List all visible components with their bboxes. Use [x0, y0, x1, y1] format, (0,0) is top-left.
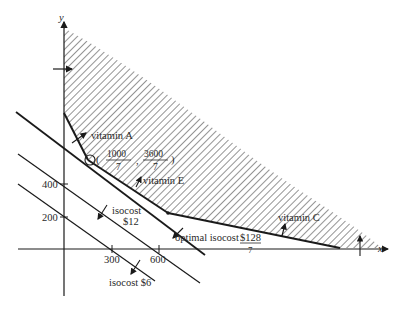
x-tick-label-300: 300	[104, 254, 120, 265]
y-denominator: 7	[153, 162, 158, 172]
isocost-6-label: isocost $6	[109, 277, 151, 288]
y-axis-label: y	[58, 12, 64, 23]
optimal-cost-numerator: $128	[240, 232, 261, 243]
corner-point	[166, 211, 170, 215]
vitamin-c-label: vitamin C	[278, 212, 320, 223]
svg-text:(: (	[96, 154, 100, 166]
isocost-6-arrow-icon	[131, 260, 140, 274]
optimal-isocost-label: optimal isocost $128 7	[175, 232, 261, 255]
x-denominator: 7	[116, 162, 121, 172]
svg-text:optimal isocost: optimal isocost	[175, 232, 239, 243]
svg-text:): )	[171, 154, 175, 166]
y-numerator: 3600	[144, 149, 163, 159]
linear-programming-diagram: y x 300 600 400 200 vitamin A vitamin E …	[0, 0, 396, 311]
y-tick-label-200: 200	[42, 212, 58, 223]
x-axis-label: x	[377, 243, 383, 254]
isocost-12-label-line1: isocost	[112, 205, 141, 216]
svg-text:,: ,	[136, 155, 139, 166]
vitamin-a-label: vitamin A	[91, 130, 133, 141]
y-tick-label-400: 400	[42, 179, 58, 190]
isocost-6-line	[18, 184, 155, 281]
x-numerator: 1000	[107, 149, 126, 159]
x-tick-label-600: 600	[150, 254, 166, 265]
vitamin-e-label: vitamin E	[143, 175, 184, 186]
isocost-12-label-line2: $12	[123, 216, 139, 227]
optimal-cost-denominator: 7	[248, 245, 253, 255]
